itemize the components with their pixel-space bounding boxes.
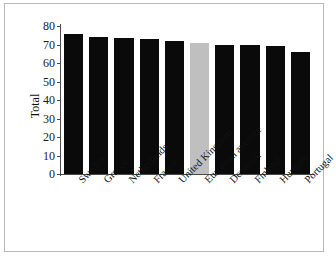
y-axis-tick-label: 30: [43, 113, 55, 125]
bar-slot: [61, 26, 86, 174]
y-axis-tick-label: 40: [43, 94, 55, 106]
y-axis-tick-label: 80: [43, 20, 55, 32]
bar-sweden[interactable]: [64, 34, 83, 174]
y-axis-tick-mark: [57, 174, 61, 175]
bar-netherlands[interactable]: [114, 38, 133, 174]
y-axis-tick-label: 50: [43, 76, 55, 88]
y-axis-tick-label: 0: [49, 168, 55, 180]
bar-slot: [86, 26, 111, 174]
bar-united-kingdom[interactable]: [165, 41, 184, 174]
y-axis-tick-label: 70: [43, 39, 55, 51]
bar-slot: [288, 26, 313, 174]
chart-frame: Total 01020304050607080 SwedenGreeceNeth…: [4, 3, 324, 252]
y-axis-tick-label: 20: [43, 131, 55, 143]
bar-slot: [111, 26, 136, 174]
y-axis-tick-label: 10: [43, 150, 55, 162]
bar-slot: [263, 26, 288, 174]
plot-area: 01020304050607080: [61, 26, 313, 174]
bar-series: [61, 26, 313, 174]
y-axis-title: Total: [29, 94, 41, 119]
y-axis-tick-label: 60: [43, 57, 55, 69]
